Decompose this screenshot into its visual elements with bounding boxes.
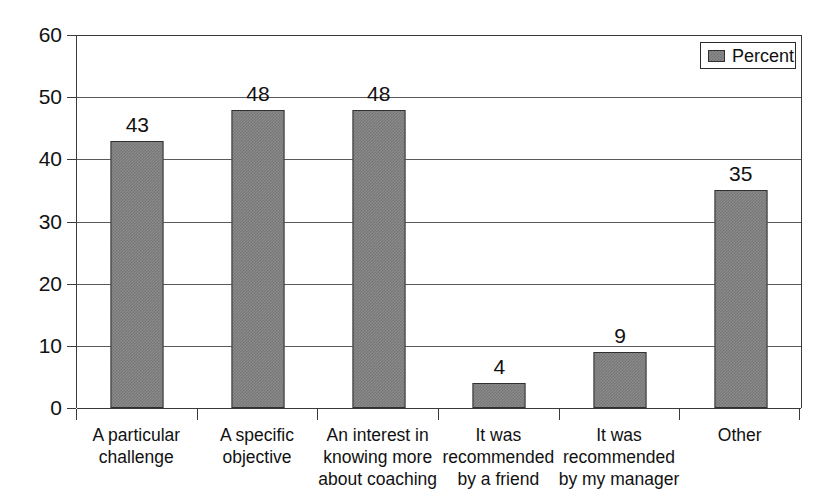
y-axis-tick-label: 40 bbox=[20, 148, 62, 169]
x-axis-category-label-line: It was bbox=[559, 424, 680, 446]
y-axis-tick-label: 0 bbox=[20, 397, 62, 418]
x-axis-category-label: It wasrecommendedby my manager bbox=[559, 424, 680, 490]
y-axis-tick-label: 50 bbox=[20, 86, 62, 107]
x-axis-tick-mark bbox=[559, 409, 560, 420]
legend: Percent bbox=[700, 42, 796, 69]
x-axis-category-label-line: challenge bbox=[76, 446, 197, 468]
bar[interactable] bbox=[714, 190, 767, 408]
x-axis-category-label-line: about coaching bbox=[317, 468, 438, 490]
bar-value-label: 43 bbox=[126, 114, 149, 135]
x-axis-tick-mark bbox=[197, 409, 198, 420]
bar-value-label: 4 bbox=[493, 356, 505, 377]
bar-slot: 43 bbox=[77, 35, 198, 408]
bar-value-label: 48 bbox=[246, 83, 269, 104]
x-axis-category-label-line: knowing more bbox=[317, 446, 438, 468]
y-axis-tick-mark bbox=[67, 408, 76, 409]
bar-value-label: 48 bbox=[367, 83, 390, 104]
x-axis-tick-marks bbox=[76, 409, 800, 421]
bar-slot: 9 bbox=[560, 35, 681, 408]
bars-layer: 4348484935 bbox=[77, 35, 801, 408]
bar-value-label: 35 bbox=[729, 163, 752, 184]
x-axis-tick-mark bbox=[799, 409, 800, 420]
legend-swatch-percent-icon bbox=[708, 50, 725, 62]
bar-chart: 6050403020100 4348484935 A particularcha… bbox=[0, 0, 836, 503]
bar-slot: 48 bbox=[198, 35, 319, 408]
bar-slot: 35 bbox=[680, 35, 801, 408]
x-axis-category-label-line: A particular bbox=[76, 424, 197, 446]
x-axis-tick-mark bbox=[76, 409, 77, 420]
bar[interactable] bbox=[231, 110, 284, 408]
y-axis-tick-labels: 6050403020100 bbox=[14, 0, 62, 503]
x-axis-category-label-line: A specific bbox=[197, 424, 318, 446]
y-axis-tick-mark bbox=[67, 346, 76, 347]
y-axis-tick-label: 20 bbox=[20, 273, 62, 294]
x-axis-tick-mark bbox=[679, 409, 680, 420]
legend-label-percent: Percent bbox=[732, 47, 794, 65]
x-axis-tick-mark bbox=[438, 409, 439, 420]
y-axis-tick-mark bbox=[67, 159, 76, 160]
x-axis-category-label-line: recommended bbox=[559, 446, 680, 468]
x-axis-category-label: A specificobjective bbox=[197, 424, 318, 468]
x-axis-category-labels: A particularchallengeA specificobjective… bbox=[76, 424, 800, 503]
x-axis-category-label: An interest inknowing moreabout coaching bbox=[317, 424, 438, 490]
y-axis-tick-label: 60 bbox=[20, 24, 62, 45]
x-axis-tick-mark bbox=[317, 409, 318, 420]
bar-slot: 4 bbox=[439, 35, 560, 408]
x-axis-category-label: A particularchallenge bbox=[76, 424, 197, 468]
y-axis-tick-label: 30 bbox=[20, 211, 62, 232]
y-axis-tick-label: 10 bbox=[20, 335, 62, 356]
y-axis-tick-mark bbox=[67, 222, 76, 223]
bar[interactable] bbox=[352, 110, 405, 408]
x-axis-category-label-line: by my manager bbox=[559, 468, 680, 490]
y-axis-tick-mark bbox=[67, 97, 76, 98]
bar-slot: 48 bbox=[318, 35, 439, 408]
plot-area: 4348484935 bbox=[76, 35, 802, 408]
x-axis-category-label-line: objective bbox=[197, 446, 318, 468]
x-axis-category-label-line: It was bbox=[438, 424, 559, 446]
x-axis-category-label-line: recommended bbox=[438, 446, 559, 468]
y-axis-tick-mark bbox=[67, 35, 76, 36]
x-axis-category-label-line: Other bbox=[679, 424, 800, 446]
bar[interactable] bbox=[593, 352, 646, 408]
x-axis-category-label-line: by a friend bbox=[438, 468, 559, 490]
x-axis-category-label: It wasrecommendedby a friend bbox=[438, 424, 559, 490]
x-axis-category-label-line: An interest in bbox=[317, 424, 438, 446]
bar-value-label: 9 bbox=[614, 325, 626, 346]
bar[interactable] bbox=[473, 383, 526, 408]
x-axis-category-label: Other bbox=[679, 424, 800, 446]
y-axis-tick-marks bbox=[67, 0, 76, 503]
bar[interactable] bbox=[111, 141, 164, 408]
y-axis-tick-mark bbox=[67, 284, 76, 285]
